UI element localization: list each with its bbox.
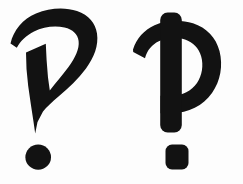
round-dot — [25, 145, 51, 170]
image-canvas — [0, 0, 243, 184]
glyph-artwork — [0, 0, 243, 184]
square-dot — [166, 145, 189, 170]
vertical-stem — [160, 13, 182, 133]
